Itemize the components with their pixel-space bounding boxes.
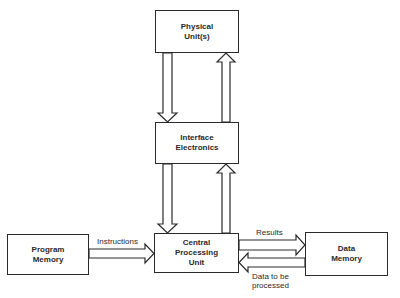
instructions-label: Instructions	[97, 237, 138, 246]
arrow-instructions	[89, 244, 154, 263]
physical-units-box: Physical Unit(s)	[155, 10, 239, 53]
data-memory-label-1: Data	[338, 244, 355, 254]
program-memory-label-1: Program	[32, 245, 65, 255]
program-memory-label-2: Memory	[33, 255, 64, 265]
interface-electronics-label-2: Electronics	[175, 143, 218, 153]
arrow-cpu-to-interface	[217, 164, 235, 233]
physical-units-label-2: Unit(s)	[184, 32, 209, 42]
cpu-label-2: Processing	[175, 248, 218, 258]
data-memory-box: Data Memory	[305, 232, 388, 276]
arrow-physical-to-interface	[158, 53, 177, 122]
arrow-data-to-be-processed	[239, 253, 305, 272]
cpu-box: Central Processing Unit	[154, 233, 239, 273]
results-label: Results	[256, 228, 283, 237]
data-memory-label-2: Memory	[331, 254, 362, 264]
arrow-results	[239, 235, 305, 255]
arrow-interface-to-cpu	[158, 164, 177, 233]
data-to-be-processed-label-1: Data to be	[252, 272, 289, 281]
data-to-be-processed-label-2: processed	[252, 281, 289, 290]
physical-units-label-1: Physical	[181, 22, 213, 32]
arrow-interface-to-physical	[217, 53, 235, 122]
cpu-label-1: Central	[183, 238, 211, 248]
program-memory-box: Program Memory	[7, 234, 89, 275]
interface-electronics-box: Interface Electronics	[155, 122, 239, 164]
cpu-label-3: Unit	[189, 258, 205, 268]
interface-electronics-label-1: Interface	[180, 133, 213, 143]
